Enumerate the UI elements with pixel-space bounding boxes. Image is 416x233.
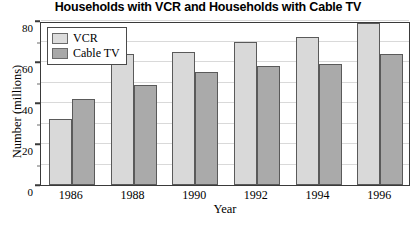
- bar-chart: Households with VCR and Households with …: [0, 0, 416, 233]
- bar-vcr-1990: [172, 52, 195, 185]
- y-axis-title: Number (millions): [10, 47, 25, 177]
- bar-cable-tv-1988: [134, 85, 157, 185]
- bar-cable-tv-1994: [319, 64, 342, 185]
- legend-item: VCR: [52, 31, 120, 46]
- x-tick-label: 1988: [121, 188, 145, 203]
- legend-swatch-icon: [52, 48, 68, 59]
- legend-item: Cable TV: [52, 46, 120, 61]
- x-tick-label: 1994: [306, 188, 330, 203]
- chart-title: Households with VCR and Households with …: [0, 0, 416, 14]
- x-tick-label: 1996: [367, 188, 391, 203]
- bar-vcr-1992: [234, 42, 257, 186]
- legend-swatch-icon: [52, 33, 68, 44]
- bar-cable-tv-1996: [380, 54, 403, 185]
- bar-vcr-1994: [296, 37, 319, 185]
- bar-cable-tv-1986: [72, 99, 95, 185]
- bar-vcr-1986: [49, 119, 72, 185]
- x-tick-label: 1986: [59, 188, 83, 203]
- gridline: [41, 20, 409, 21]
- bar-vcr-1996: [357, 23, 380, 185]
- bar-cable-tv-1990: [195, 72, 218, 185]
- x-tick-label: 1990: [182, 188, 206, 203]
- bar-vcr-1988: [111, 54, 134, 185]
- x-tick-label: 1992: [244, 188, 268, 203]
- chart-legend: VCRCable TV: [47, 27, 127, 65]
- x-axis-title: Year: [40, 202, 410, 217]
- legend-label: Cable TV: [73, 47, 120, 60]
- bar-cable-tv-1992: [257, 66, 280, 185]
- legend-label: VCR: [73, 32, 98, 45]
